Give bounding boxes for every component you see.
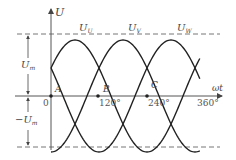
point-a-label: A (54, 84, 62, 94)
three-phase-diagram: U ωt UU UV UW Um −Um 0 120° 240° 360° A … (0, 0, 236, 160)
tick-120: 120° (99, 98, 121, 108)
series-v-label: UV (128, 22, 141, 34)
um-label: Um (21, 59, 35, 71)
tick-360: 360° (197, 98, 219, 108)
y-axis-label: U (55, 6, 65, 19)
point-a-dot (49, 94, 53, 98)
x-axis-label: ωt (212, 83, 223, 93)
series-u-label: UU (79, 22, 93, 34)
series-w-label: UW (177, 22, 192, 34)
neg-um-label: −Um (15, 114, 38, 126)
point-b-label: B (102, 84, 110, 94)
point-c-label: C (151, 80, 158, 90)
tick-240: 240° (148, 98, 170, 108)
origin-label: 0 (43, 98, 49, 108)
